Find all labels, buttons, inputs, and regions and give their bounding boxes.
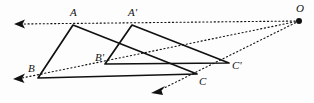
center-point-O [296, 18, 302, 24]
arrowhead-ray-C [151, 86, 165, 95]
arrowhead-ray-A [14, 20, 25, 29]
diagram-canvas [0, 0, 314, 103]
label-C-prime: C' [232, 60, 242, 71]
triangle-ABC [38, 25, 197, 78]
label-O: O [296, 3, 304, 14]
label-A: A [70, 7, 77, 18]
ray-O-through-C [156, 21, 299, 92]
ray-O-through-A [20, 21, 299, 24]
label-B: B [28, 63, 35, 74]
label-C: C [199, 76, 206, 87]
label-A-prime: A' [128, 7, 137, 18]
label-B-prime: B' [95, 52, 104, 63]
ray-O-through-B [22, 21, 299, 78]
homothety-diagram: A A' B B' C C' O [0, 0, 314, 103]
